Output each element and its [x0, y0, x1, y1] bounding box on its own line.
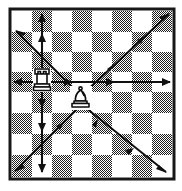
chessboard-graphic [0, 0, 182, 191]
rook-body [37, 74, 47, 84]
rook-base-lower [34, 87, 51, 91]
square-d6 [72, 52, 92, 72]
square-d8 [72, 11, 92, 32]
square-h6 [152, 52, 172, 72]
square-f6 [112, 52, 132, 72]
piece-rook[interactable] [33, 68, 51, 92]
square-h2 [152, 134, 172, 155]
square-c7 [52, 32, 72, 52]
square-f8 [112, 11, 132, 32]
square-g3 [132, 113, 152, 134]
chess-movement-diagram: Chess board movement diagram 8x8 chessbo… [0, 0, 182, 191]
square-c1 [52, 155, 72, 177]
bishop-base [72, 104, 89, 108]
square-f4 [112, 92, 132, 113]
square-e1 [92, 155, 112, 177]
square-d2 [72, 134, 92, 155]
piece-bishop[interactable] [70, 86, 92, 110]
square-a3 [12, 113, 32, 134]
square-h4 [152, 92, 172, 113]
square-e7 [92, 32, 112, 52]
